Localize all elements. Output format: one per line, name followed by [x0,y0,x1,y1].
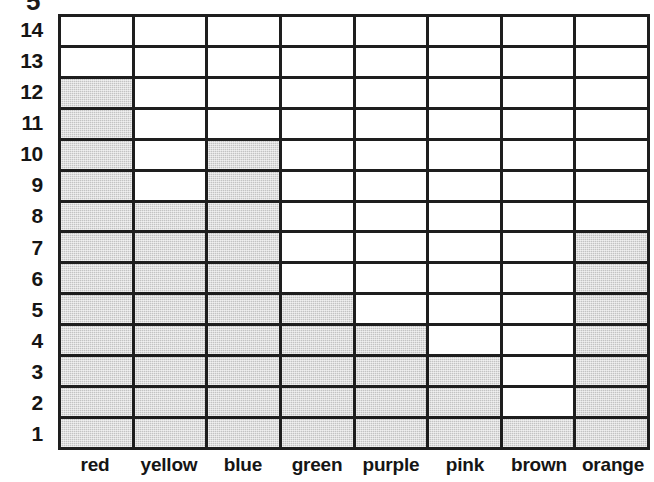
grid-cell-purple-14 [356,17,430,45]
grid-cell-brown-5 [503,295,577,323]
grid-cell-pink-4 [429,326,503,354]
grid-cell-green-14 [282,17,356,45]
grid-cell-pink-12 [429,79,503,107]
grid-cell-orange-8 [576,203,647,231]
grid-cell-brown-7 [503,233,577,261]
grid-row [61,141,647,172]
x-tick-label-purple: purple [354,452,428,480]
grid-row [61,172,647,203]
grid-cell-blue-10 [208,141,282,169]
grid-row [61,48,647,79]
grid-cell-yellow-12 [135,79,209,107]
grid-cell-purple-11 [356,110,430,138]
grid-cell-green-7 [282,233,356,261]
grid-cell-pink-9 [429,172,503,200]
grid-cell-yellow-8 [135,203,209,231]
y-tick-label: 7 [0,232,52,263]
grid-cell-purple-13 [356,48,430,76]
y-tick-label: 4 [0,325,52,356]
grid-cell-blue-14 [208,17,282,45]
grid-cell-blue-4 [208,326,282,354]
grid-cell-brown-12 [503,79,577,107]
grid-cell-blue-5 [208,295,282,323]
y-tick-label: 3 [0,357,52,388]
grid-cell-yellow-5 [135,295,209,323]
y-tick-label: 11 [0,107,52,138]
grid-cell-purple-7 [356,233,430,261]
grid-row [61,264,647,295]
grid-cell-orange-14 [576,17,647,45]
grid-cell-purple-5 [356,295,430,323]
grid-cell-red-11 [61,110,135,138]
y-tick-label: 10 [0,139,52,170]
grid-cell-yellow-1 [135,419,209,447]
y-tick-label: 5 [0,294,52,325]
grid-cell-green-11 [282,110,356,138]
grid-cell-pink-1 [429,419,503,447]
grid-cell-red-5 [61,295,135,323]
grid-cell-green-12 [282,79,356,107]
grid-cell-red-9 [61,172,135,200]
grid-cell-brown-1 [503,419,577,447]
grid-cell-pink-10 [429,141,503,169]
grid-cell-brown-8 [503,203,577,231]
grid-cell-pink-6 [429,264,503,292]
grid-cell-orange-2 [576,388,647,416]
y-tick-label: 12 [0,76,52,107]
grid-cell-blue-8 [208,203,282,231]
grid-row [61,295,647,326]
grid-cell-blue-3 [208,357,282,385]
grid-row [61,79,647,110]
grid-cell-orange-6 [576,264,647,292]
grid-cell-orange-7 [576,233,647,261]
grid-cell-purple-8 [356,203,430,231]
grid-cell-yellow-10 [135,141,209,169]
grid-cell-purple-4 [356,326,430,354]
grid-cell-red-12 [61,79,135,107]
grid-cell-blue-11 [208,110,282,138]
grid-cell-blue-1 [208,419,282,447]
grid-cell-red-4 [61,326,135,354]
grid-cell-purple-10 [356,141,430,169]
y-tick-label: 2 [0,388,52,419]
grid-cell-red-7 [61,233,135,261]
y-tick-label: 6 [0,263,52,294]
grid-cell-yellow-9 [135,172,209,200]
grid-cell-green-2 [282,388,356,416]
x-tick-label-brown: brown [502,452,576,480]
grid-row [61,326,647,357]
grid-cell-blue-9 [208,172,282,200]
grid-cell-pink-5 [429,295,503,323]
grid-cell-orange-1 [576,419,647,447]
grid-cell-orange-12 [576,79,647,107]
grid-cell-red-1 [61,419,135,447]
grid-cell-blue-6 [208,264,282,292]
x-tick-label-yellow: yellow [132,452,206,480]
grid-cell-yellow-7 [135,233,209,261]
y-tick-label: 13 [0,45,52,76]
grid-cell-red-6 [61,264,135,292]
grid-cell-yellow-11 [135,110,209,138]
plot-area-grid [58,14,650,450]
grid-cell-brown-11 [503,110,577,138]
grid-cell-brown-3 [503,357,577,385]
grid-cell-blue-12 [208,79,282,107]
bar-chart: 1413121110987654321 redyellowbluegreenpu… [0,0,654,482]
grid-cell-brown-13 [503,48,577,76]
grid-cell-green-6 [282,264,356,292]
y-tick-label: 14 [0,14,52,45]
grid-cell-orange-11 [576,110,647,138]
grid-cell-brown-9 [503,172,577,200]
grid-cell-purple-1 [356,419,430,447]
y-tick-label: 8 [0,201,52,232]
y-axis-tick-labels: 1413121110987654321 [0,14,52,450]
grid-cell-yellow-13 [135,48,209,76]
grid-cell-orange-5 [576,295,647,323]
grid-cell-pink-3 [429,357,503,385]
grid-cell-yellow-3 [135,357,209,385]
grid-cell-red-3 [61,357,135,385]
grid-cell-orange-10 [576,141,647,169]
grid-cell-brown-10 [503,141,577,169]
grid-row [61,110,647,141]
grid-cell-red-10 [61,141,135,169]
